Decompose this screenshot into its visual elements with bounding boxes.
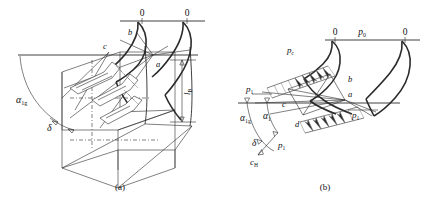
comb-l-a1-b [305,120,313,131]
label-point-c-a: c [103,41,107,51]
persp-3-a [145,124,192,126]
label-zero-right-b: 0 [403,27,408,37]
blade-right-suction-b [366,41,402,99]
figure-svg: 0 0 b c a α1g δ lB (a) [0,0,430,203]
label-p0-b: p0 [357,27,366,38]
label-alpha-1g-a: α1g [16,94,27,106]
label-p1-right-b: p1 [351,110,360,121]
caption-panel-a: (a) [115,182,125,192]
persp-2-a [62,124,145,168]
label-zero-left-b: 0 [333,27,338,37]
label-cH-b: cH [250,157,258,168]
comb-u-t2-b [281,83,286,93]
label-p1-lower-b: p1 [277,140,286,151]
comb-u-a8-b [323,68,331,78]
delta-arc-b [262,141,274,151]
label-alpha-1-b: α1 [263,111,271,122]
label-point-b-a: b [128,27,132,37]
alpha-1g-arrow-top-b [245,98,250,103]
label-zero-left-a: 0 [140,8,145,18]
comb-l-t0-b [300,122,305,133]
panel-b: 0 0 p0 pc p1 p1 p1 α1g α1 δ cH b a c d (… [238,27,420,192]
ray-a4-a [120,40,153,55]
comb-l-a2-b [313,118,321,129]
comb-l-a3-b [321,116,329,127]
alpha-1g-arc-a [20,56,58,122]
comb-l-a5-b [337,112,345,123]
inflow-line-2-b [262,92,345,100]
ray-a6-a [153,46,168,55]
label-pc-b: pc [286,45,295,56]
blade-right-lower-a [165,95,181,120]
persp-1-a [118,126,192,188]
label-point-a-a: a [156,59,160,69]
comb-upper-arrows-b [295,68,331,88]
panel-a: 0 0 b c a α1g δ lB (a) [16,8,205,192]
label-height-lB-a: lB [182,88,193,95]
comb-l-a4-b [329,114,337,125]
label-point-d-b: d [295,119,300,129]
cv-bottom-box-a [62,110,175,188]
blade-right-trailing-a [190,47,192,126]
delta-arrow-a [68,129,74,133]
figure-container: 0 0 b c a α1g δ lB (a) [0,0,430,203]
comb-lower-base-b [300,107,358,122]
label-delta-a: δ [47,122,52,133]
label-zero-right-a: 0 [185,8,190,18]
label-p1-left-b: p1 [245,84,254,95]
comb-u-a6-b [309,73,317,83]
label-point-c-b: c [282,99,286,109]
blade-right-pressure-b [374,41,410,116]
comb-u-a4-b [295,78,303,88]
caption-panel-b: (b) [320,182,331,192]
comb-upper-base-b [267,66,328,88]
label-delta-b: δ [252,138,257,148]
label-point-b-b: b [348,74,352,84]
label-point-a-b: a [348,89,352,99]
perspective-lines-a [62,124,192,188]
